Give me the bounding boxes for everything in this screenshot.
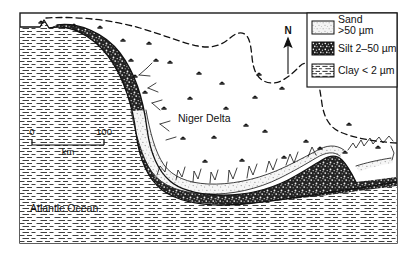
scale-min-label: 0 (29, 126, 34, 137)
scale-unit-label: km (62, 146, 75, 157)
legend-item-silt[interactable]: Silt 2–50 µm (312, 42, 397, 55)
legend-item-clay[interactable]: Clay < 2 µm (312, 64, 395, 77)
legend: Sand >50 µm Silt 2–50 µm Clay < 2 µm (307, 13, 397, 87)
map-figure: 0 100 km Niger Delta Atlantic Ocean N Sa… (0, 0, 415, 257)
north-arrow-label: N (284, 25, 291, 36)
legend-label-silt: Silt 2–50 µm (338, 42, 397, 54)
scale-max-label: 100 (96, 126, 112, 137)
legend-swatch-clay (312, 64, 334, 77)
map-canvas: 0 100 km Niger Delta Atlantic Ocean N Sa… (0, 0, 415, 257)
legend-label-clay: Clay < 2 µm (338, 64, 395, 76)
legend-swatch-silt (312, 42, 334, 55)
label-atlantic-ocean: Atlantic Ocean (30, 202, 98, 214)
legend-swatch-sand (312, 21, 334, 34)
legend-label-sand-line2: >50 µm (338, 24, 374, 36)
label-niger-delta: Niger Delta (178, 112, 231, 124)
